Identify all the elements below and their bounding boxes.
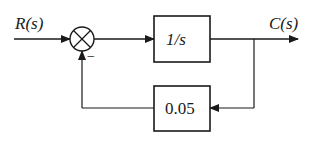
forward-block-label: 1/s: [166, 31, 186, 48]
summing-junction: [70, 27, 94, 51]
diagram-lines: [0, 0, 314, 144]
output-signal-label: C(s): [269, 15, 298, 32]
input-signal-label: R(s): [15, 15, 43, 32]
block-diagram: R(s) C(s) − 1/s 0.05: [0, 0, 314, 144]
feedback-block-label: 0.05: [165, 100, 195, 117]
feedback-sign-label: −: [87, 50, 95, 64]
